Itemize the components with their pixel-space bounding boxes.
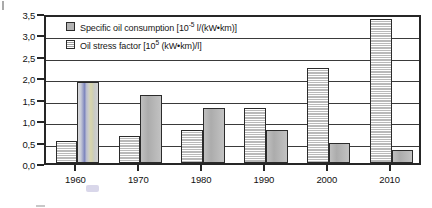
x-tick-label: 1960: [65, 174, 86, 185]
x-tick-label: 1970: [128, 174, 149, 185]
x-tick-label: 1980: [191, 174, 212, 185]
y-tick-label: 1,5: [22, 95, 35, 106]
x-tick-mark: [137, 165, 139, 171]
x-axis: 196019701980199020002010: [44, 165, 421, 195]
bar: [266, 130, 288, 163]
bar: [370, 19, 392, 163]
bar: [244, 108, 266, 163]
y-tick-mark: [37, 121, 44, 123]
x-tick-mark: [200, 165, 202, 171]
y-tick-mark: [37, 143, 44, 145]
bar-group: [360, 17, 423, 163]
y-tick-mark: [37, 78, 44, 80]
scan-edge-mark-bottom-left: [36, 205, 45, 207]
legend-swatch-solid-icon: [66, 22, 75, 31]
y-tick-label: 3,0: [22, 31, 35, 42]
bar: [119, 136, 141, 163]
bar-group: [235, 17, 298, 163]
bar: [392, 150, 414, 163]
x-tick-label: 1990: [254, 174, 275, 185]
x-tick-mark: [74, 165, 76, 171]
bar-group: [297, 17, 360, 163]
x-tick-label: 2010: [379, 174, 400, 185]
x-tick-label: 2000: [316, 174, 337, 185]
x-tick-mark: [326, 165, 328, 171]
y-tick-mark: [37, 57, 44, 59]
bar-chart: 0,00,51,01,52,02,53,03,5 196019701980199…: [0, 0, 432, 208]
scan-tint-artifact: [86, 185, 99, 192]
y-tick-label: 3,5: [22, 10, 35, 21]
bar: [203, 108, 225, 163]
y-tick-label: 0,5: [22, 138, 35, 149]
y-tick-mark: [37, 164, 44, 166]
chart-legend: Specific oil consumption [10-5 l/(kW•km)…: [66, 19, 237, 55]
bar: [307, 68, 329, 163]
y-tick-label: 2,5: [22, 52, 35, 63]
bar: [77, 82, 99, 163]
bar: [329, 143, 351, 163]
legend-label-oil-stress-factor: Oil stress factor [105 (kW•km)/l]: [80, 39, 202, 51]
bar: [140, 95, 162, 163]
legend-item-specific-oil-consumption: Specific oil consumption [10-5 l/(kW•km)…: [66, 19, 237, 34]
legend-swatch-striped-icon: [66, 40, 75, 49]
x-tick-mark: [263, 165, 265, 171]
bar: [181, 130, 203, 163]
bar: [56, 141, 78, 163]
y-axis: 0,00,51,01,52,02,53,03,5: [0, 0, 44, 170]
y-tick-mark: [37, 14, 44, 16]
y-tick-label: 1,0: [22, 117, 35, 128]
y-tick-label: 0,0: [22, 160, 35, 171]
legend-item-oil-stress-factor: Oil stress factor [105 (kW•km)/l]: [66, 37, 237, 52]
x-tick-mark: [389, 165, 391, 171]
y-tick-mark: [37, 100, 44, 102]
legend-label-specific-oil-consumption: Specific oil consumption [10-5 l/(kW•km)…: [80, 21, 237, 33]
y-tick-mark: [37, 35, 44, 37]
y-tick-label: 2,0: [22, 74, 35, 85]
